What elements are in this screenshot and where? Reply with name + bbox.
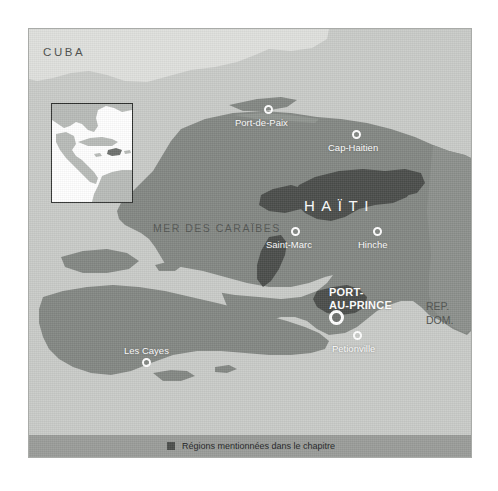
landmass-cuba	[29, 29, 329, 82]
city-label-saint-marc: Saint-Marc	[266, 239, 312, 250]
islet-ile-a-vache	[153, 370, 195, 381]
city-label-port-au-prince: PORT- AU-PRINCE	[329, 286, 392, 311]
capital-marker-icon	[329, 310, 344, 325]
islet-small-south	[215, 365, 237, 373]
inset-locator-svg	[52, 104, 132, 202]
city-label-port-de-paix: Port-de-Paix	[235, 117, 288, 128]
city-label-cap-haitien: Cap-Haitien	[328, 142, 378, 153]
city-label-les-cayes: Les Cayes	[124, 345, 169, 356]
landmass-ile-de-la-gonave	[61, 249, 139, 273]
city-marker-icon	[264, 105, 273, 114]
city-label-port-au-prince-line1: PORT-	[329, 286, 392, 299]
city-marker-icon	[373, 227, 382, 236]
city-label-hinche: Hinche	[358, 239, 388, 250]
city-marker-icon	[353, 331, 362, 340]
city-marker-icon	[352, 130, 361, 139]
city-label-port-au-prince-line2: AU-PRINCE	[329, 299, 392, 312]
city-marker-icon	[142, 358, 151, 367]
city-marker-icon	[291, 227, 300, 236]
inset-locator-map	[51, 103, 133, 203]
city-label-petionville: Petionville	[332, 343, 375, 354]
map-figure: CUBA MER DES CARAÏBES HAÏTI REP. DOM. Po…	[28, 28, 472, 458]
legend-label: Régions mentionnées dans le chapitre	[182, 441, 335, 451]
map-geography-layer	[29, 29, 472, 458]
legend-swatch-icon	[167, 442, 175, 450]
landmass-dominican-republic	[427, 145, 472, 333]
map-legend: Régions mentionnées dans le chapitre	[29, 435, 472, 457]
